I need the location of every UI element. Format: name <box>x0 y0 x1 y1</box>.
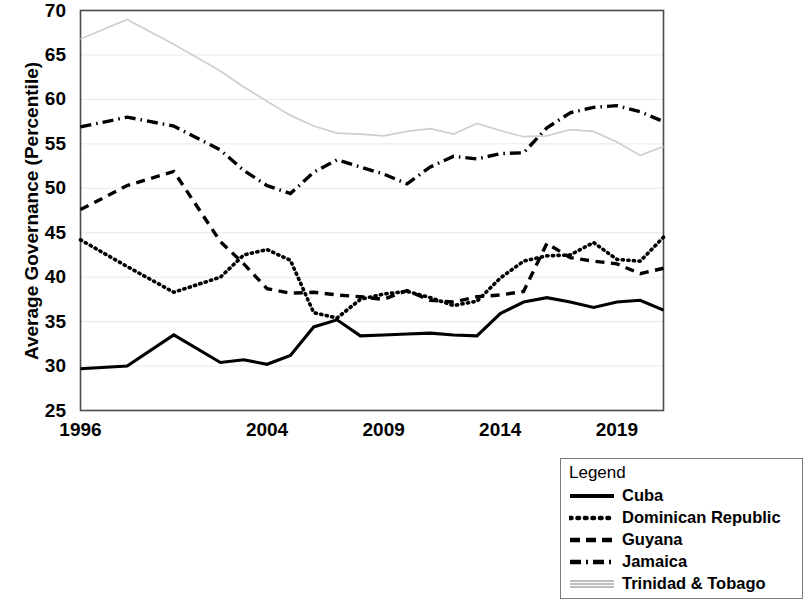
legend-swatch-dashdot <box>569 554 615 568</box>
gridlines <box>81 55 664 366</box>
legend-item[interactable]: Trinidad & Tobago <box>569 572 802 594</box>
legend-item-label: Cuba <box>622 487 663 504</box>
series-line-jamaica <box>81 106 664 194</box>
series-lines <box>81 19 664 368</box>
legend-item-label: Guyana <box>622 531 683 548</box>
legend: Legend CubaDominican RepublicGuyanaJamai… <box>560 458 803 599</box>
legend-item[interactable]: Dominican Republic <box>569 506 802 528</box>
legend-item-label: Jamaica <box>622 553 687 570</box>
plot-frame <box>81 11 664 411</box>
legend-item[interactable]: Cuba <box>569 484 802 506</box>
legend-swatch-light-solid <box>569 576 615 590</box>
legend-item-label: Dominican Republic <box>622 509 781 526</box>
legend-item[interactable]: Guyana <box>569 528 802 550</box>
series-line-guyana <box>81 171 664 302</box>
governance-line-chart: Average Governance (Percentile) 25303540… <box>0 0 810 610</box>
legend-swatch-solid <box>569 488 615 502</box>
legend-swatch-dotted <box>569 510 615 524</box>
legend-items: CubaDominican RepublicGuyanaJamaicaTrini… <box>569 484 802 594</box>
series-line-trinidad-tobago <box>81 19 664 155</box>
series-line-cuba <box>81 298 664 369</box>
legend-item[interactable]: Jamaica <box>569 550 802 572</box>
legend-swatch-dashed <box>569 532 615 546</box>
legend-title: Legend <box>569 463 802 483</box>
legend-item-label: Trinidad & Tobago <box>622 575 766 592</box>
